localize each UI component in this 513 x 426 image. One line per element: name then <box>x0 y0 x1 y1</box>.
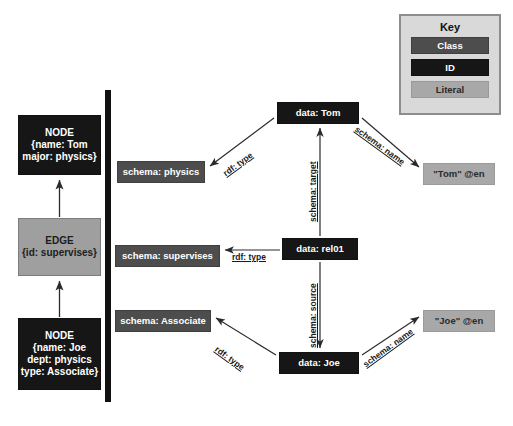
rdf-literal-tom: "Tom" @en <box>423 163 495 185</box>
schema-supervises-label: schema: supervises <box>122 250 213 262</box>
rdf-class-schema-associate: schema: Associate <box>115 310 211 332</box>
rdf-literal-joe: "Joe" @en <box>423 310 495 332</box>
edge-supervises-line-2: {id: supervises} <box>22 247 97 259</box>
property-graph-edge-supervises: EDGE {id: supervises} <box>18 218 101 276</box>
key-item-id: ID <box>411 59 489 76</box>
node-tom-line-3: major: physics} <box>22 151 96 163</box>
data-tom-label: data: Tom <box>296 107 341 119</box>
key-legend-panel: Key Class ID Literal <box>399 14 501 115</box>
edge-label-schema-source: schema: source <box>308 283 318 348</box>
rdf-class-schema-supervises: schema: supervises <box>115 245 220 267</box>
property-graph-node-joe: NODE {name: Joe dept: physics type: Asso… <box>18 318 101 390</box>
rdf-id-data-rel01: data: rel01 <box>282 238 358 260</box>
rdf-class-schema-physics: schema: physics <box>117 161 205 183</box>
rdf-id-data-joe: data: Joe <box>279 352 359 374</box>
edge-supervises-line-1: EDGE <box>45 235 73 247</box>
edge-label-schema-target: schema: target <box>308 162 318 222</box>
schema-associate-label: schema: Associate <box>120 315 206 327</box>
data-joe-label: data: Joe <box>298 357 340 369</box>
edge-label-rdf-type-rel01: rdf: type <box>232 252 266 262</box>
node-joe-line-1: NODE <box>45 330 74 342</box>
node-tom-line-1: NODE <box>45 127 74 139</box>
property-graph-node-tom: NODE {name: Tom major: physics} <box>18 115 101 175</box>
schema-physics-label: schema: physics <box>123 166 200 178</box>
key-item-class-label: Class <box>437 40 462 51</box>
key-item-id-label: ID <box>445 62 455 73</box>
key-item-class: Class <box>411 37 489 54</box>
key-item-literal: Literal <box>411 81 489 98</box>
key-item-literal-label: Literal <box>436 84 465 95</box>
node-tom-line-2: {name: Tom <box>31 139 88 151</box>
literal-tom-label: "Tom" @en <box>433 168 484 180</box>
key-title: Key <box>401 21 499 33</box>
node-joe-line-2: {name: Joe <box>33 342 86 354</box>
node-joe-line-3: dept: physics <box>27 354 91 366</box>
node-joe-line-4: type: Associate} <box>21 366 98 378</box>
rdf-id-data-tom: data: Tom <box>277 102 359 124</box>
literal-joe-label: "Joe" @en <box>435 315 483 327</box>
diagram-canvas: NODE {name: Tom major: physics} EDGE {id… <box>0 0 513 426</box>
data-rel01-label: data: rel01 <box>296 243 344 255</box>
